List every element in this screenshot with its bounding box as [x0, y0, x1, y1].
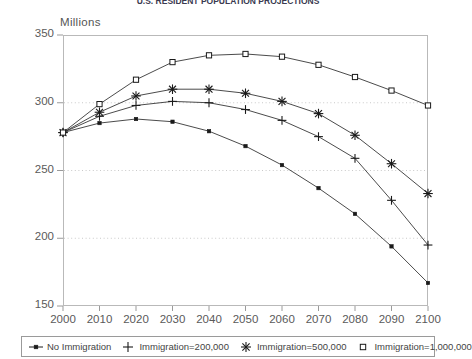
- legend-item: No Immigration: [28, 340, 111, 354]
- open-square-marker: [355, 340, 371, 354]
- legend-item-label: No Immigration: [47, 341, 111, 352]
- legend-item: Immigration=200,000: [120, 340, 229, 354]
- y-axis-tick-label: 200: [14, 230, 54, 242]
- series-plus: [59, 97, 433, 249]
- asterisk-star-marker: [238, 340, 254, 354]
- legend-item: Immigration=500,000: [238, 340, 347, 354]
- series-asterisk: [58, 84, 433, 198]
- legend-item-label: Immigration=1,000,000: [374, 341, 471, 352]
- plus-marker: [120, 340, 136, 354]
- y-axis-tick-label: 300: [14, 95, 54, 107]
- legend-item-label: Immigration=500,000: [257, 341, 347, 352]
- x-axis-tick-label: 2100: [406, 313, 450, 325]
- legend-item: Immigration=1,000,000: [355, 340, 471, 354]
- y-axis-tick-label: 350: [14, 27, 54, 39]
- legend-item-label: Immigration=200,000: [139, 341, 229, 352]
- series-filled-square: [61, 117, 429, 284]
- filled-square-line-marker: [28, 340, 44, 354]
- chart-legend: No ImmigrationImmigration=200,000Immigra…: [21, 336, 435, 357]
- y-axis-tick-label: 150: [14, 298, 54, 310]
- y-axis-tick-label: 250: [14, 163, 54, 175]
